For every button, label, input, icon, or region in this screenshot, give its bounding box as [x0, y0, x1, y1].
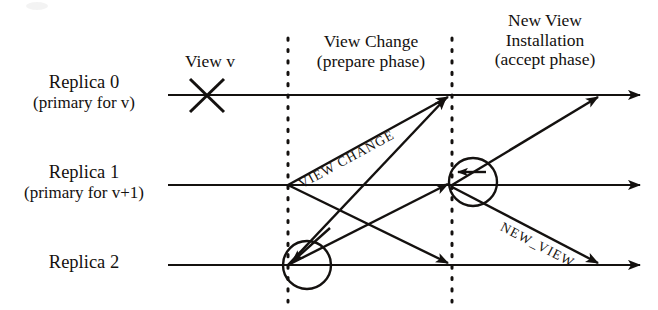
phase-header-view-change: View Change (prepare phase): [292, 32, 450, 71]
pbft-view-change-figure: Replica 0 (primary for v) Replica 1 (pri…: [0, 0, 658, 310]
view-v-label: View v: [160, 52, 260, 72]
replica-1-role: (primary for v+1): [2, 183, 166, 202]
phase-header-new-view: New View Installation (accept phase): [456, 11, 634, 70]
phase-view-change-name: View Change: [324, 31, 419, 51]
replica-1-name: Replica 1: [49, 162, 119, 182]
replica-label-0: Replica 0 (primary for v): [8, 72, 160, 112]
phase-new-view-name: New View: [508, 10, 582, 30]
phase-new-view-sub: Installation: [456, 31, 634, 51]
arrow-r1-to-r2-newview: [452, 187, 598, 263]
arrow-r1-to-r0-newview: [452, 97, 598, 185]
arrow-into-r2-local: [292, 228, 330, 262]
phase-view-change-sub: (prepare phase): [292, 52, 450, 72]
replica-0-role: (primary for v): [8, 93, 160, 112]
replica-label-2: Replica 2: [8, 252, 160, 273]
phase-new-view-sub2: (accept phase): [456, 50, 634, 70]
replica-label-1: Replica 1 (primary for v+1): [2, 162, 166, 202]
replica-2-name: Replica 2: [49, 252, 119, 272]
replica-0-name: Replica 0: [49, 72, 119, 92]
